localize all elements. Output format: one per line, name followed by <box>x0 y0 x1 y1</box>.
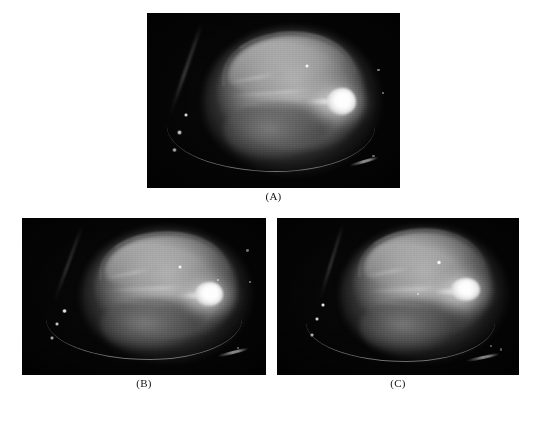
support-strut <box>53 225 83 303</box>
speckle <box>377 69 379 71</box>
fiducial-marker <box>321 303 325 307</box>
panel-a <box>147 13 400 188</box>
panel-b <box>22 218 266 375</box>
speckle <box>382 92 384 94</box>
fiducial-marker <box>62 309 66 313</box>
lesion-core <box>327 88 356 114</box>
panel-b-caption: (B) <box>22 377 266 391</box>
lesion-core <box>195 282 223 306</box>
fiducial-marker <box>184 113 188 117</box>
catheter-tubing <box>306 318 495 361</box>
speckle <box>246 249 248 251</box>
panel-c-caption: (C) <box>277 377 519 391</box>
support-strut <box>168 23 202 117</box>
speckle <box>249 281 251 283</box>
tubing-highlight <box>350 156 380 167</box>
panel-a-caption: (A) <box>147 190 400 204</box>
fiducial-marker <box>50 336 54 340</box>
tubing-highlight <box>466 353 500 363</box>
lesion-core <box>451 278 480 302</box>
panel-c <box>277 218 519 375</box>
figure-root: (A) <box>0 0 544 421</box>
catheter-tubing <box>167 122 374 172</box>
panel-b-image <box>22 218 266 375</box>
catheter-tubing <box>46 315 241 360</box>
tubing-highlight <box>217 348 249 359</box>
speckle <box>500 348 502 350</box>
panel-c-image <box>277 218 519 375</box>
panel-a-image <box>147 13 400 188</box>
fiducial-marker <box>172 148 176 152</box>
speckle <box>490 345 492 347</box>
point-source <box>437 260 441 264</box>
